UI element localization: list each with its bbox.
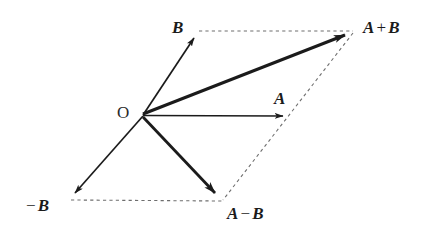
vector-label-b-text: B <box>172 18 184 37</box>
vector-label-a-plus-b-tail: B <box>388 18 400 37</box>
vector-diagram-figure: O B A A+B −B A−B <box>0 0 448 230</box>
vector-label-a-text: A <box>274 89 286 108</box>
plus-operator: + <box>375 18 389 37</box>
vector-label-a-minus-b-head: A <box>227 204 239 223</box>
vector-label-a-plus-b: A+B <box>363 19 400 36</box>
vector-arrow-a-plus-b <box>143 35 345 114</box>
minus-operator-b: − <box>24 196 38 215</box>
vector-label-a-plus-b-head: A <box>363 18 375 37</box>
origin-label: O <box>117 104 129 121</box>
vector-label-b: B <box>172 19 184 36</box>
vector-arrows <box>75 35 345 193</box>
vector-label-a-minus-b-tail: B <box>252 204 264 223</box>
vector-label-a-minus-b: A−B <box>227 205 264 222</box>
minus-operator-ab: − <box>239 204 253 223</box>
vector-arrow-a <box>143 116 283 117</box>
vector-label-minus-b-text: B <box>38 196 50 215</box>
vector-arrow-minus-b <box>75 116 143 193</box>
dashed-line-bottom <box>71 200 222 201</box>
vector-arrow-a-minus-b <box>143 117 215 193</box>
vector-label-minus-b: −B <box>24 197 49 214</box>
vector-label-a: A <box>274 90 286 107</box>
